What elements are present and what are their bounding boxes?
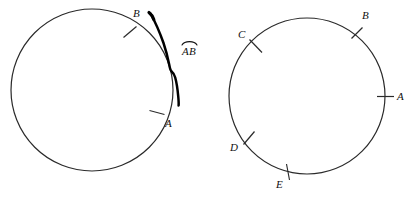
right-point-label-d: D — [230, 142, 238, 153]
right-point-label-e: E — [276, 179, 283, 190]
geometry-figure: B A AB B A C D E — [0, 0, 419, 198]
arc-ab-notation: AB — [182, 46, 196, 57]
right-point-label-b: B — [362, 10, 369, 21]
left-point-label-a: A — [165, 118, 172, 129]
right-circle-group — [229, 18, 394, 180]
arc-ab-highlight-stroke — [151, 14, 179, 106]
right-point-label-c: C — [238, 29, 245, 40]
left-tick-b — [124, 27, 137, 38]
left-tick-a — [150, 111, 165, 115]
right-circle-outline — [229, 18, 385, 174]
arc-ab-notation-letters: AB — [182, 46, 196, 57]
left-circle-outline — [11, 9, 173, 171]
right-tick-d — [244, 132, 255, 145]
right-tick-c — [250, 40, 263, 53]
left-point-label-b: B — [133, 8, 140, 19]
arc-ab-highlight-cap — [149, 13, 154, 20]
figure-canvas — [0, 0, 419, 198]
right-point-label-a: A — [397, 91, 404, 102]
left-circle-group — [11, 9, 179, 171]
